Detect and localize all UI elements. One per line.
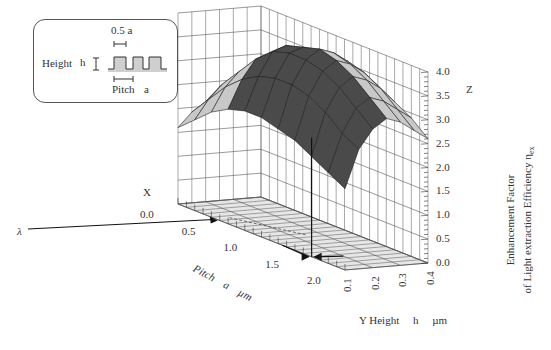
height-unit: µm bbox=[432, 314, 447, 326]
z-corner-label: Z bbox=[466, 83, 473, 95]
inset-height-label: Height bbox=[42, 57, 72, 69]
z-tick-label: 1.0 bbox=[436, 208, 450, 220]
z-tick-label: 2.5 bbox=[436, 137, 450, 149]
z-axis-title: Enhancement Factor of Light extraction E… bbox=[502, 125, 540, 315]
inset-pitch-symbol: a bbox=[144, 83, 149, 95]
z-tick-label: 3.5 bbox=[436, 89, 450, 101]
inset-pitch-label: Pitch bbox=[112, 83, 135, 95]
height-tick-label: 0.2 bbox=[369, 276, 381, 290]
inset-height-symbol: h bbox=[80, 56, 86, 68]
z-title-subscript: ex bbox=[527, 147, 536, 155]
z-title-line2: of Light extraction Efficiency ηex bbox=[519, 125, 540, 315]
pitch-tick-label: 1.5 bbox=[265, 258, 279, 270]
z-tick-label: 2.0 bbox=[436, 161, 450, 173]
z-tick-label: 0.0 bbox=[436, 256, 450, 268]
lambda-label: λ bbox=[17, 225, 22, 237]
height-title-text: Y Height bbox=[359, 314, 399, 326]
z-title-line2-text: of Light extraction Efficiency η bbox=[521, 154, 533, 293]
pitch-symbol: a bbox=[222, 278, 232, 291]
z-tick-label: 1.5 bbox=[436, 184, 450, 196]
z-tick-label: 3.0 bbox=[436, 113, 450, 125]
height-symbol: h bbox=[413, 314, 419, 326]
pitch-tick-label: 0.5 bbox=[182, 225, 196, 237]
z-title-line1: Enhancement Factor bbox=[502, 125, 519, 315]
pitch-tick-label: 2.0 bbox=[307, 274, 321, 286]
height-tick-label: 0.4 bbox=[424, 271, 436, 285]
z-tick-label: 4.0 bbox=[436, 65, 450, 77]
height-tick-label: 0.3 bbox=[396, 274, 408, 288]
x-corner-label: X bbox=[143, 186, 151, 198]
inset-width-label: 0.5 a bbox=[111, 24, 132, 36]
z-tick-label: 0.5 bbox=[436, 232, 450, 244]
inset-diagram: 0.5 a Height h Pitch a bbox=[33, 19, 178, 103]
height-axis-title: Y Height h µm bbox=[359, 314, 447, 326]
height-tick-label: 0.1 bbox=[341, 278, 353, 292]
pitch-tick-label: 1.0 bbox=[224, 241, 238, 253]
pitch-tick-label: 0.0 bbox=[140, 208, 154, 220]
